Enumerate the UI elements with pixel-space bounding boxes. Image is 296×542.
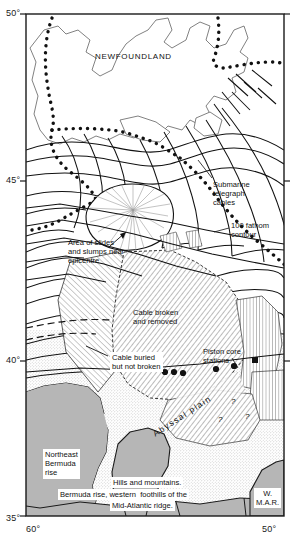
label-mid-atlantic-ridge: Mid-Atlantic ridge. [110, 500, 175, 511]
station-dot [171, 369, 177, 375]
label-piston-core-stations: Piston core stations [203, 347, 241, 365]
latitude-label-50: 50° [6, 8, 20, 18]
label-submarine-telegraph-cables: Submarine telegraph cables [213, 180, 250, 208]
label-area-of-slides: Area of slides and slumps near epicentre [68, 238, 124, 266]
label-newfoundland: NEWFOUNDLAND [95, 52, 172, 61]
longitude-label-60: 60° [26, 524, 40, 534]
label-query-2: ? [245, 412, 249, 421]
station-dot [213, 366, 219, 372]
figure-map: 50° 45° 40° 35° 60° 50° NEWFOUNDLAND Sub… [0, 0, 296, 542]
label-cable-buried-not-broken: Cable buried but not broken [110, 352, 163, 372]
label-100-fathom-contour: 100 fathom contour [231, 221, 269, 239]
latitude-label-45: 45° [6, 175, 20, 185]
label-cable-broken-and-removed: Cable broken and removed [133, 308, 178, 326]
label-northeast-bermuda-rise: Northeast Bermuda rise [43, 449, 80, 479]
station-square [252, 357, 258, 363]
label-w-mar: W. M.A.R. [254, 488, 281, 508]
longitude-label-50: 50° [262, 524, 276, 534]
label-bermuda-rise-foothills: Bermuda rise, western foothills of the [58, 489, 189, 500]
latitude-label-35: 35° [6, 513, 20, 523]
station-dot [162, 369, 168, 375]
station-dot [180, 370, 186, 376]
label-query-3: ? [218, 415, 222, 424]
label-hills-and-mountains: Hills and mountains. [111, 477, 183, 488]
label-query-1: ? [231, 397, 235, 406]
latitude-label-40: 40° [6, 355, 20, 365]
